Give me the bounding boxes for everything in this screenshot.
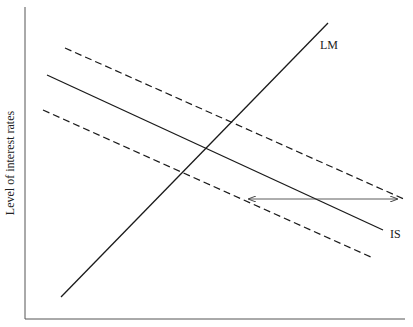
is-curve bbox=[47, 75, 383, 230]
is-curve-shifted-down bbox=[43, 110, 373, 258]
is-label: IS bbox=[390, 227, 401, 241]
lm-label: LM bbox=[320, 38, 338, 52]
is-curve-shifted-up bbox=[65, 48, 406, 200]
y-axis-label: Level of interest rates bbox=[3, 111, 17, 216]
islm-diagram: Level of interest rates LM IS bbox=[0, 0, 413, 327]
